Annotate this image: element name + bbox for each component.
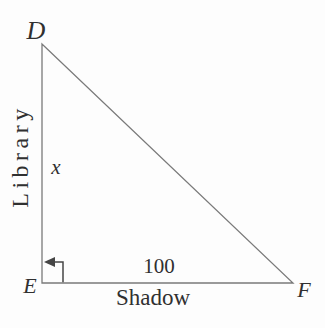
vertex-label-f: F — [297, 279, 310, 301]
vertex-label-e: E — [23, 275, 36, 297]
vertex-label-d: D — [27, 18, 46, 44]
left-arrow-icon — [44, 257, 55, 267]
triangle-figure — [0, 0, 325, 328]
library-side-caption: Library — [8, 104, 32, 207]
triangle-outline — [42, 44, 293, 283]
horizontal-side-length-label: 100 — [143, 256, 175, 277]
vertical-side-length-label: x — [51, 157, 60, 178]
figure-canvas: D E F x Library 100 Shadow — [0, 0, 325, 328]
shadow-side-caption: Shadow — [116, 286, 190, 309]
